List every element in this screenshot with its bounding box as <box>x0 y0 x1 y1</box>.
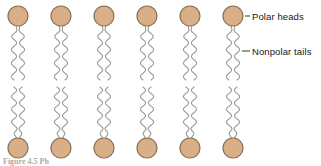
polar-head <box>94 138 114 158</box>
bilayer-diagram <box>0 0 321 166</box>
nonpolar-tail <box>183 26 188 80</box>
nonpolar-tail <box>19 87 25 138</box>
nonpolar-tail <box>226 87 232 138</box>
polar-head <box>223 6 243 26</box>
nonpolar-tail <box>54 87 60 138</box>
polar-head <box>180 6 200 26</box>
polar-head <box>8 6 28 26</box>
nonpolar-tail <box>140 26 145 80</box>
nonpolar-tail <box>234 87 240 138</box>
nonpolar-tail <box>62 26 67 80</box>
lower-leaflet-group <box>8 87 243 158</box>
nonpolar-tail <box>97 87 103 138</box>
figure-caption: Figure 4.5 Ph <box>3 157 153 166</box>
nonpolar-tail <box>234 26 239 80</box>
polar-head <box>94 6 114 26</box>
nonpolar-tail <box>140 87 146 138</box>
nonpolar-tail <box>105 26 110 80</box>
upper-leaflet-group <box>8 6 243 80</box>
polar-head <box>223 138 243 158</box>
nonpolar-tail <box>183 87 189 138</box>
nonpolar-tail <box>11 26 16 80</box>
polar-head <box>8 138 28 158</box>
nonpolar-tail <box>105 87 111 138</box>
polar-head <box>137 6 157 26</box>
nonpolar-tail <box>148 26 153 80</box>
nonpolar-tail <box>191 26 196 80</box>
nonpolar-tail <box>11 87 17 138</box>
polar-head <box>137 138 157 158</box>
nonpolar-tail <box>191 87 197 138</box>
nonpolar-tail <box>62 87 68 138</box>
nonpolar-tail <box>226 26 231 80</box>
leader-lines-group <box>242 16 250 51</box>
nonpolar-tail <box>19 26 24 80</box>
polar-head <box>51 138 71 158</box>
figure-container: Polar heads Nonpolar tails Figure 4.5 Ph <box>0 0 321 166</box>
polar-head <box>51 6 71 26</box>
polar-head <box>180 138 200 158</box>
nonpolar-tail <box>97 26 102 80</box>
nonpolar-tail <box>54 26 59 80</box>
label-nonpolar-tails: Nonpolar tails <box>252 46 312 57</box>
label-polar-heads: Polar heads <box>252 11 304 22</box>
nonpolar-tail <box>148 87 154 138</box>
